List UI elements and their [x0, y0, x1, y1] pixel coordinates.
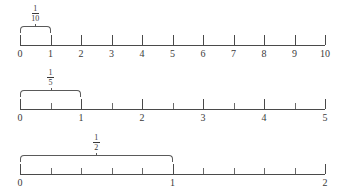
major-tick [142, 35, 143, 45]
axis-tick-label: 2 [69, 49, 93, 59]
major-tick [142, 99, 143, 109]
axis-tick-label: 2 [313, 178, 337, 188]
axis-tick-label: 8 [252, 49, 276, 59]
axis-tick-label: 7 [222, 49, 246, 59]
minor-tick [234, 103, 235, 109]
axis-tick-label: 5 [313, 113, 337, 123]
fraction-numerator: 1 [31, 69, 71, 77]
axis-tick-label: 4 [130, 49, 154, 59]
number-lines-figure: 012345678910110 01234515 01212 [0, 0, 348, 193]
axis-tick-label: 6 [191, 49, 215, 59]
minor-tick [112, 103, 113, 109]
span-bracket [20, 26, 51, 33]
fraction-label: 110 [15, 5, 55, 23]
axis-tick-label: 9 [283, 49, 307, 59]
axis-tick-label: 0 [8, 49, 32, 59]
axis-tick-label: 3 [100, 49, 124, 59]
bracket-nub [51, 88, 52, 91]
span-bracket [20, 90, 81, 97]
fraction-label: 15 [31, 69, 71, 87]
major-tick [203, 35, 204, 45]
axis-line [20, 109, 325, 110]
fraction-denominator: 10 [15, 14, 55, 23]
fraction-denominator: 5 [31, 78, 71, 87]
major-tick [173, 35, 174, 45]
minor-tick [51, 103, 52, 109]
minor-tick [142, 168, 143, 174]
major-tick [81, 99, 82, 109]
major-tick [295, 35, 296, 45]
major-tick [81, 35, 82, 45]
minor-tick [112, 168, 113, 174]
bracket-nub [35, 24, 36, 27]
major-tick [325, 35, 326, 45]
number-line-3: 01212 [0, 128, 348, 193]
major-tick [20, 35, 21, 45]
major-tick [264, 99, 265, 109]
minor-tick [295, 103, 296, 109]
major-tick [325, 99, 326, 109]
axis-tick-label: 3 [191, 113, 215, 123]
number-line-2: 01234515 [0, 64, 348, 128]
minor-tick [81, 168, 82, 174]
major-tick [112, 35, 113, 45]
major-tick [234, 35, 235, 45]
fraction-numerator: 1 [15, 5, 55, 13]
number-line-1: 012345678910110 [0, 0, 348, 64]
axis-tick-label: 1 [161, 178, 185, 188]
minor-tick [51, 168, 52, 174]
axis-tick-label: 2 [130, 113, 154, 123]
major-tick [264, 35, 265, 45]
major-tick [203, 99, 204, 109]
axis-tick-label: 1 [69, 113, 93, 123]
minor-tick [295, 168, 296, 174]
major-tick [173, 164, 174, 174]
span-bracket [20, 155, 173, 162]
axis-tick-label: 4 [252, 113, 276, 123]
fraction-denominator: 2 [76, 143, 116, 152]
axis-tick-label: 10 [313, 49, 337, 59]
minor-tick [173, 103, 174, 109]
fraction-label: 12 [76, 134, 116, 152]
major-tick [325, 164, 326, 174]
axis-line [20, 174, 325, 175]
major-tick [20, 99, 21, 109]
major-tick [20, 164, 21, 174]
minor-tick [203, 168, 204, 174]
axis-tick-label: 0 [8, 113, 32, 123]
fraction-numerator: 1 [76, 134, 116, 142]
axis-tick-label: 0 [8, 178, 32, 188]
axis-line [20, 45, 325, 46]
major-tick [51, 35, 52, 45]
minor-tick [234, 168, 235, 174]
bracket-nub [96, 153, 97, 156]
axis-tick-label: 5 [161, 49, 185, 59]
minor-tick [264, 168, 265, 174]
axis-tick-label: 1 [39, 49, 63, 59]
